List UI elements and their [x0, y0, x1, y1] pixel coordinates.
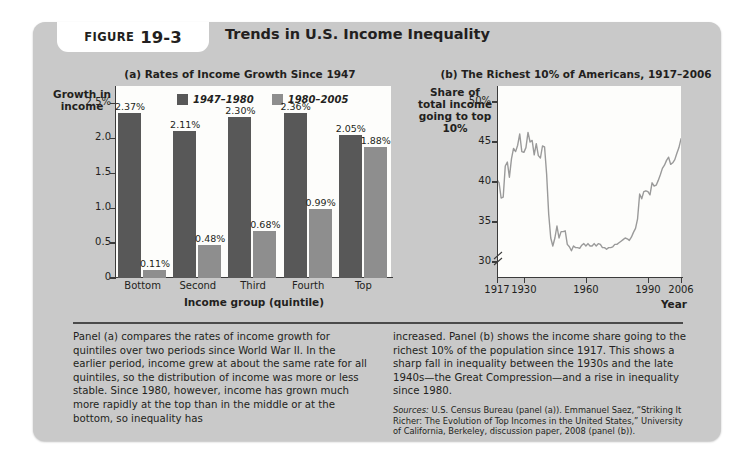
bar-group: 2.11%0.48%	[170, 86, 225, 278]
bar-group: 2.30%0.68%	[225, 86, 280, 278]
sources-text: U.S. Census Bureau (panel (a)). Emmanuel…	[393, 405, 683, 436]
bar-chart-bars: 2.37%0.11%Bottom2.11%0.48%Second2.30%0.6…	[115, 86, 391, 278]
line-chart: (b) The Richest 10% of Americans, 1917–2…	[421, 86, 709, 314]
line-chart-xtick-label-1930: 1930	[501, 284, 547, 295]
line-chart-tick-label-1: 35	[451, 215, 491, 226]
bar-chart-category-second: Second	[170, 280, 226, 291]
bar-value-label: 2.11%	[165, 119, 205, 130]
bar-value-label: 1.88%	[356, 135, 396, 146]
line-chart-tick-label-4: 50%	[451, 95, 491, 106]
line-chart-svg	[497, 86, 681, 278]
bar-chart-title: (a) Rates of Income Growth Since 1947	[95, 68, 385, 80]
line-chart-xtick-4	[681, 277, 682, 283]
bar-chart-x-axis-label: Income group (quintile)	[115, 296, 393, 308]
caption-column-left: Panel (a) compares the rates of income g…	[73, 330, 367, 430]
line-chart-tick-2	[492, 181, 498, 182]
bar-chart-category-fourth: Fourth	[280, 280, 336, 291]
charts-region: (a) Rates of Income Growth Since 1947 Gr…	[33, 62, 721, 320]
bar-value-label: 2.05%	[331, 123, 371, 134]
figure-caption: Panel (a) compares the rates of income g…	[73, 330, 687, 430]
bar-value-label: 2.37%	[110, 101, 150, 112]
caption-sources: Sources: U.S. Census Bureau (panel (a)).…	[393, 405, 687, 437]
line-chart-plot-area	[497, 86, 681, 278]
bar-chart-y-ticks: 00.51.01.52.02.5%	[67, 86, 111, 278]
line-chart-y-ticks: 3035404550%	[447, 86, 491, 278]
bar-chart-tick-label-0: 0	[71, 271, 111, 282]
figure-header: FIGURE 19-3 Trends in U.S. Income Inequa…	[33, 22, 721, 62]
line-chart-title: (b) The Richest 10% of Americans, 1917–2…	[431, 68, 721, 80]
line-chart-xtick-label-1960: 1960	[563, 284, 609, 295]
bar-chart-tick-4	[110, 138, 116, 139]
caption-text-right: increased. Panel (b) shows the income sh…	[393, 330, 687, 398]
sources-label: Sources:	[393, 405, 429, 415]
bar-chart-tick-0	[110, 277, 116, 278]
bar-chart-tick-label-2: 1.0	[71, 201, 111, 212]
bar-chart-tick-label-4: 2.0	[71, 131, 111, 142]
line-chart-tick-0	[492, 261, 498, 262]
line-chart-xtick-1	[524, 277, 525, 283]
line-chart-tick-3	[492, 141, 498, 142]
line-chart-tick-label-2: 40	[451, 175, 491, 186]
bar-group: 2.05%1.88%	[336, 86, 391, 278]
bar-chart-tick-label-5: 2.5%	[71, 96, 111, 107]
figure-tab-label: FIGURE	[84, 30, 134, 44]
line-chart-x-axis-label: Year	[617, 298, 687, 310]
bar-chart-tick-1	[110, 242, 116, 243]
bar-bottom-1947-1980	[118, 113, 141, 278]
bar-value-label: 2.36%	[276, 101, 316, 112]
line-chart-tick-1	[492, 221, 498, 222]
line-chart-xtick-3	[648, 277, 649, 283]
figure-title: Trends in U.S. Income Inequality	[225, 26, 490, 42]
caption-text-left: Panel (a) compares the rates of income g…	[73, 330, 367, 425]
bar-chart-category-third: Third	[225, 280, 281, 291]
bar-chart-tick-label-3: 1.5	[71, 166, 111, 177]
bar-second-1947-1980	[173, 131, 196, 278]
bar-third-1947-1980	[228, 117, 251, 278]
line-chart-xtick-label-2006: 2006	[658, 284, 704, 295]
line-chart-tick-label-3: 45	[451, 135, 491, 146]
axis-break-icon	[491, 246, 505, 268]
bar-top-1947-1980	[339, 135, 362, 278]
line-chart-xtick-2	[586, 277, 587, 283]
line-chart-tick-4	[492, 101, 498, 102]
bar-group: 2.36%0.99%	[281, 86, 336, 278]
figure-tab-number: 19-3	[140, 28, 181, 47]
caption-divider	[73, 322, 683, 324]
bar-second-1980-2005	[198, 245, 221, 279]
bar-bottom-1980-2005	[143, 270, 166, 278]
figure-number-tab: FIGURE 19-3	[57, 22, 209, 52]
bar-chart-tick-3	[110, 173, 116, 174]
bar-fourth-1980-2005	[309, 209, 332, 278]
bar-value-label: 0.99%	[301, 197, 341, 208]
bar-third-1980-2005	[253, 231, 276, 278]
bar-chart-tick-5	[110, 103, 116, 104]
bar-value-label: 0.11%	[135, 258, 175, 269]
bar-chart-tick-2	[110, 208, 116, 209]
line-chart-xtick-0	[497, 277, 498, 283]
bar-value-label: 0.68%	[245, 219, 285, 230]
bar-value-label: 2.30%	[220, 105, 260, 116]
bar-chart: (a) Rates of Income Growth Since 1947 Gr…	[51, 86, 403, 314]
bar-group: 2.37%0.11%	[115, 86, 170, 278]
bar-value-label: 0.48%	[190, 233, 230, 244]
bar-chart-tick-label-1: 0.5	[71, 236, 111, 247]
caption-column-right: increased. Panel (b) shows the income sh…	[393, 330, 687, 430]
bar-chart-category-top: Top	[335, 280, 391, 291]
figure-panel: FIGURE 19-3 Trends in U.S. Income Inequa…	[33, 22, 721, 441]
bar-chart-category-bottom: Bottom	[115, 280, 171, 291]
bar-top-1980-2005	[364, 147, 387, 278]
line-chart-tick-label-0: 30	[451, 255, 491, 266]
bar-fourth-1947-1980	[284, 113, 307, 278]
